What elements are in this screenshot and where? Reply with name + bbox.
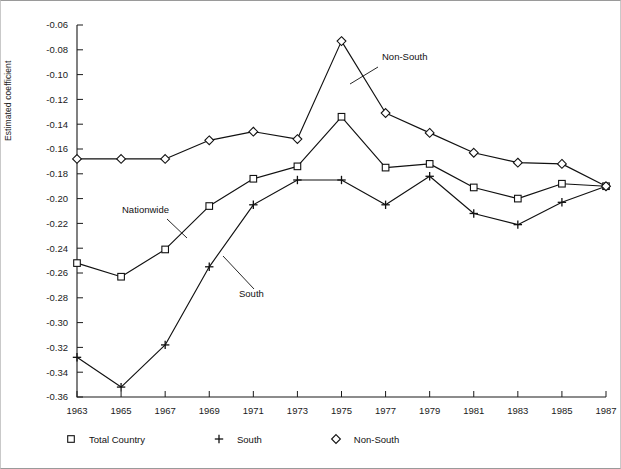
legend-marker-diamond-icon	[328, 432, 344, 446]
x-tick-label: 1985	[551, 405, 572, 416]
x-tick-label: 1975	[331, 405, 352, 416]
annotation-leader-line	[350, 67, 378, 84]
legend-label: Total Country	[89, 434, 145, 445]
legend-marker-plus-icon	[211, 432, 227, 446]
legend-item-non-south[interactable]: Non-South	[328, 432, 399, 446]
marker-plus	[205, 263, 213, 271]
marker-plus	[73, 353, 81, 361]
annotation-label: South	[239, 288, 264, 299]
marker-diamond	[513, 158, 522, 167]
marker-square	[559, 180, 566, 187]
y-tick-label: -0.18	[46, 168, 68, 179]
annotation-leader-line	[223, 256, 254, 289]
marker-plus	[215, 435, 223, 443]
marker-plus	[249, 201, 257, 209]
annotation-label: Nationwide	[122, 204, 169, 215]
y-tick-label: -0.28	[46, 292, 68, 303]
marker-diamond	[469, 148, 478, 157]
marker-diamond	[381, 109, 390, 118]
y-tick-label: -0.24	[46, 243, 68, 254]
y-tick-label: -0.36	[46, 391, 68, 402]
legend-marker-square-icon	[63, 432, 79, 446]
marker-plus	[558, 198, 566, 206]
y-tick-label: -0.14	[46, 119, 68, 130]
y-tick-label: -0.26	[46, 267, 68, 278]
marker-plus	[381, 201, 389, 209]
series-total-country	[74, 113, 610, 280]
x-tick-label: 1967	[155, 405, 176, 416]
legend-item-south[interactable]: South	[211, 432, 262, 446]
marker-diamond	[558, 159, 567, 168]
series-line	[77, 117, 606, 277]
marker-diamond	[73, 155, 82, 164]
marker-plus	[293, 176, 301, 184]
y-tick-label: -0.10	[46, 69, 68, 80]
legend-item-total-country[interactable]: Total Country	[63, 432, 145, 446]
legend-label: Non-South	[354, 434, 399, 445]
line-chart-plot: -0.06-0.08-0.10-0.12-0.14-0.16-0.18-0.20…	[1, 1, 621, 469]
marker-diamond	[331, 435, 340, 444]
marker-square	[118, 273, 125, 280]
y-tick-label: -0.06	[46, 19, 68, 30]
marker-diamond	[205, 136, 214, 145]
y-tick-label: -0.22	[46, 218, 68, 229]
marker-diamond	[337, 37, 346, 46]
marker-square	[250, 175, 257, 182]
x-tick-label: 1987	[595, 405, 616, 416]
chart-legend: Total CountrySouthNon-South	[1, 428, 620, 450]
marker-square	[470, 184, 477, 191]
x-tick-label: 1977	[375, 405, 396, 416]
legend-label: South	[237, 434, 262, 445]
y-tick-label: -0.16	[46, 143, 68, 154]
x-tick-label: 1983	[507, 405, 528, 416]
marker-diamond	[161, 155, 170, 164]
marker-square	[338, 113, 345, 120]
marker-diamond	[293, 135, 302, 144]
marker-plus	[514, 220, 522, 228]
marker-plus	[337, 176, 345, 184]
x-tick-label: 1969	[199, 405, 220, 416]
x-tick-label: 1965	[111, 405, 132, 416]
marker-square	[74, 260, 81, 267]
marker-square	[206, 203, 213, 210]
x-tick-label: 1973	[287, 405, 308, 416]
y-tick-label: -0.20	[46, 193, 68, 204]
annotations-group: Non-SouthNationwideSouth	[122, 51, 427, 299]
annotation-label: Non-South	[382, 51, 427, 62]
marker-square	[426, 161, 433, 168]
x-tick-label: 1963	[66, 405, 87, 416]
marker-square	[515, 195, 522, 202]
y-tick-label: -0.12	[46, 94, 68, 105]
marker-square	[382, 164, 389, 171]
annotation-leader-line	[167, 219, 187, 238]
y-tick-label: -0.30	[46, 317, 68, 328]
x-axis-ticks: 1963196519671969197119731975197719791981…	[66, 391, 616, 416]
y-tick-label: -0.32	[46, 342, 68, 353]
x-tick-label: 1979	[419, 405, 440, 416]
marker-square	[68, 436, 75, 443]
marker-diamond	[117, 155, 126, 164]
marker-square	[162, 246, 169, 253]
chart-figure: Estimated coefficient -0.06-0.08-0.10-0.…	[0, 0, 621, 469]
y-tick-label: -0.34	[46, 367, 68, 378]
y-tick-label: -0.08	[46, 44, 68, 55]
x-tick-label: 1971	[243, 405, 264, 416]
marker-diamond	[249, 127, 258, 136]
marker-diamond	[425, 128, 434, 137]
x-tick-label: 1981	[463, 405, 484, 416]
marker-square	[294, 163, 301, 170]
